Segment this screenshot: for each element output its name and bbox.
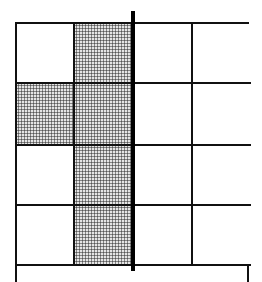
vertical-divider-line: [131, 11, 135, 271]
grid-cell-r2-c0: [17, 146, 75, 206]
grid-cell-r3-c2: [135, 206, 193, 266]
grid-cell-r3-c0: [17, 206, 75, 266]
grid-cell-r1-c2: [135, 84, 193, 146]
grid-cell-r1-c3: [193, 84, 251, 146]
grid-cell-r0-c2: [135, 24, 193, 84]
grid-cell-r2-c2: [135, 146, 193, 206]
grid-cell-r2-c3: [193, 146, 251, 206]
grid-cell-r1-c1-shaded: [75, 84, 135, 146]
grid-cell-r0-c3: [193, 24, 251, 84]
grid-cell-r0-c0: [17, 24, 75, 84]
grid-cell-r3-c3: [193, 206, 251, 266]
grid-cell-r2-c1-shaded: [75, 146, 135, 206]
grid-cell-r3-c1-shaded: [75, 206, 135, 266]
grid-cell-r0-c1-shaded: [75, 24, 135, 84]
grid-cell-r1-c0-shaded: [17, 84, 75, 146]
